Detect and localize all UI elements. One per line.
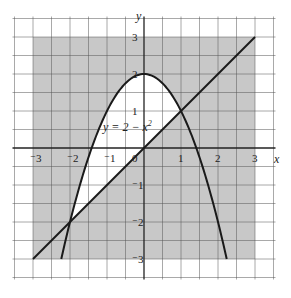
- y-tick-label: ⁻2: [132, 216, 144, 228]
- curve-equation-exponent: 2: [148, 119, 152, 128]
- y-tick-label: ⁻1: [132, 179, 144, 191]
- y-tick-label: 3: [132, 31, 138, 43]
- y-tick-label: 1: [132, 105, 138, 117]
- y-tick-label: ⁻3: [132, 253, 144, 265]
- x-tick-label: 1: [178, 152, 184, 164]
- x-tick-label: ⁻1: [104, 152, 116, 164]
- x-tick-label: 0: [132, 152, 138, 164]
- y-axis-label: y: [135, 9, 142, 23]
- x-tick-label: ⁻2: [67, 152, 79, 164]
- curve-equation-label: y = 2 − x2: [102, 119, 152, 134]
- graph-canvas: ⁻3⁻2⁻10123321⁻1⁻2⁻3 x y y = 2 − x2: [0, 0, 291, 298]
- x-tick-label: ⁻3: [30, 152, 42, 164]
- x-tick-label: 2: [215, 152, 221, 164]
- x-axis-label: x: [273, 152, 280, 166]
- y-tick-label: 2: [132, 68, 138, 80]
- x-tick-label: 3: [252, 152, 258, 164]
- curve-equation-main: y = 2 − x: [102, 120, 149, 134]
